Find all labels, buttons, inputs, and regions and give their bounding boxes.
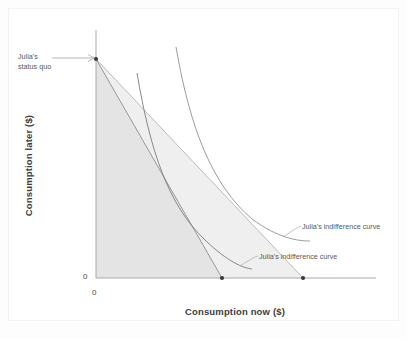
point-status-quo (94, 57, 98, 61)
status-quo-annotation-line-2: status quo (18, 62, 51, 72)
point-budget-flat-intercept (301, 276, 305, 280)
chart-plot-area (0, 0, 407, 339)
y-axis-title: Consumption later ($) (23, 86, 34, 246)
figure-canvas: Consumption later ($) Consumption now ($… (0, 0, 407, 339)
indifference-curve-inner-annotation: Julia's indifference curve (259, 252, 337, 262)
point-budget-steep-intercept (220, 276, 224, 280)
status-quo-annotation: Julia's status quo (18, 52, 51, 73)
y-axis-tick-zero: 0 (83, 272, 87, 281)
status-quo-annotation-line-1: Julia's (18, 52, 51, 62)
indifference-curve-outer-annotation: Julia's indifference curve (302, 222, 380, 232)
x-axis-title: Consumption now ($) (120, 306, 350, 317)
x-axis-tick-zero: 0 (92, 288, 96, 297)
curve-label-outer-leader-icon (283, 226, 301, 237)
